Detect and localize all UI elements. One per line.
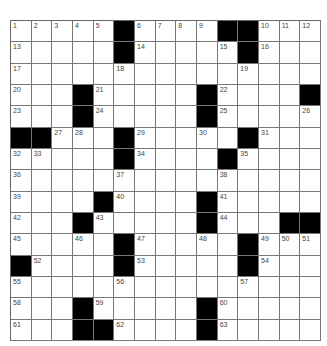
grid-cell[interactable] <box>156 85 177 106</box>
grid-cell[interactable] <box>238 192 259 213</box>
grid-cell[interactable] <box>176 85 197 106</box>
grid-cell[interactable] <box>32 42 53 63</box>
grid-cell[interactable] <box>156 277 177 298</box>
grid-cell[interactable]: 22 <box>218 85 239 106</box>
grid-cell[interactable] <box>300 64 321 85</box>
grid-cell[interactable] <box>280 42 301 63</box>
grid-cell[interactable] <box>176 170 197 191</box>
grid-cell[interactable]: 60 <box>218 298 239 319</box>
grid-cell[interactable] <box>94 42 115 63</box>
grid-cell[interactable] <box>259 192 280 213</box>
grid-cell[interactable] <box>52 64 73 85</box>
grid-cell[interactable] <box>73 42 94 63</box>
grid-cell[interactable]: 12 <box>300 21 321 42</box>
grid-cell[interactable]: 52 <box>32 256 53 277</box>
grid-cell[interactable] <box>300 320 321 341</box>
grid-cell[interactable] <box>280 170 301 191</box>
grid-cell[interactable] <box>73 192 94 213</box>
grid-cell[interactable]: 39 <box>11 192 32 213</box>
grid-cell[interactable] <box>259 213 280 234</box>
grid-cell[interactable]: 30 <box>197 128 218 149</box>
grid-cell[interactable] <box>52 192 73 213</box>
grid-cell[interactable] <box>156 192 177 213</box>
grid-cell[interactable] <box>32 277 53 298</box>
grid-cell[interactable]: 29 <box>135 128 156 149</box>
grid-cell[interactable]: 35 <box>238 149 259 170</box>
grid-cell[interactable] <box>156 298 177 319</box>
grid-cell[interactable] <box>94 170 115 191</box>
grid-cell[interactable] <box>197 170 218 191</box>
grid-cell[interactable] <box>94 149 115 170</box>
grid-cell[interactable] <box>176 234 197 255</box>
grid-cell[interactable] <box>176 128 197 149</box>
grid-cell[interactable] <box>114 85 135 106</box>
grid-cell[interactable] <box>94 128 115 149</box>
grid-cell[interactable] <box>32 213 53 234</box>
grid-cell[interactable] <box>176 213 197 234</box>
grid-cell[interactable] <box>156 213 177 234</box>
grid-cell[interactable]: 9 <box>197 21 218 42</box>
grid-cell[interactable] <box>176 277 197 298</box>
grid-cell[interactable] <box>135 320 156 341</box>
grid-cell[interactable] <box>300 170 321 191</box>
grid-cell[interactable] <box>73 277 94 298</box>
grid-cell[interactable] <box>52 298 73 319</box>
grid-cell[interactable] <box>32 192 53 213</box>
grid-cell[interactable] <box>280 149 301 170</box>
grid-cell[interactable] <box>114 213 135 234</box>
grid-cell[interactable] <box>52 256 73 277</box>
grid-cell[interactable] <box>259 149 280 170</box>
grid-cell[interactable] <box>280 298 301 319</box>
grid-cell[interactable]: 47 <box>135 234 156 255</box>
grid-cell[interactable] <box>238 106 259 127</box>
grid-cell[interactable] <box>156 64 177 85</box>
grid-cell[interactable] <box>73 256 94 277</box>
grid-cell[interactable] <box>218 234 239 255</box>
grid-cell[interactable] <box>300 298 321 319</box>
grid-cell[interactable]: 53 <box>135 256 156 277</box>
grid-cell[interactable] <box>280 320 301 341</box>
grid-cell[interactable]: 62 <box>114 320 135 341</box>
grid-cell[interactable] <box>94 64 115 85</box>
grid-cell[interactable]: 61 <box>11 320 32 341</box>
grid-cell[interactable] <box>135 298 156 319</box>
grid-cell[interactable] <box>73 149 94 170</box>
grid-cell[interactable]: 36 <box>11 170 32 191</box>
grid-cell[interactable] <box>32 320 53 341</box>
grid-cell[interactable]: 37 <box>114 170 135 191</box>
grid-cell[interactable] <box>280 256 301 277</box>
grid-cell[interactable] <box>135 106 156 127</box>
grid-cell[interactable] <box>300 256 321 277</box>
grid-cell[interactable] <box>156 42 177 63</box>
grid-cell[interactable] <box>135 213 156 234</box>
grid-cell[interactable] <box>135 277 156 298</box>
grid-cell[interactable] <box>114 106 135 127</box>
grid-cell[interactable]: 32 <box>11 149 32 170</box>
grid-cell[interactable] <box>176 320 197 341</box>
grid-cell[interactable]: 58 <box>11 298 32 319</box>
grid-cell[interactable] <box>156 106 177 127</box>
grid-cell[interactable] <box>238 85 259 106</box>
grid-cell[interactable]: 7 <box>156 21 177 42</box>
grid-cell[interactable] <box>52 106 73 127</box>
grid-cell[interactable] <box>197 149 218 170</box>
grid-cell[interactable]: 2 <box>32 21 53 42</box>
grid-cell[interactable] <box>52 85 73 106</box>
grid-cell[interactable] <box>135 85 156 106</box>
grid-cell[interactable] <box>238 320 259 341</box>
grid-cell[interactable] <box>238 170 259 191</box>
grid-cell[interactable]: 34 <box>135 149 156 170</box>
grid-cell[interactable] <box>32 85 53 106</box>
grid-cell[interactable] <box>156 234 177 255</box>
grid-cell[interactable]: 54 <box>259 256 280 277</box>
grid-cell[interactable] <box>94 256 115 277</box>
grid-cell[interactable]: 56 <box>114 277 135 298</box>
grid-cell[interactable]: 25 <box>218 106 239 127</box>
grid-cell[interactable]: 1 <box>11 21 32 42</box>
grid-cell[interactable] <box>94 234 115 255</box>
grid-cell[interactable] <box>259 298 280 319</box>
grid-cell[interactable]: 50 <box>280 234 301 255</box>
grid-cell[interactable]: 18 <box>114 64 135 85</box>
grid-cell[interactable] <box>280 192 301 213</box>
grid-cell[interactable]: 13 <box>11 42 32 63</box>
